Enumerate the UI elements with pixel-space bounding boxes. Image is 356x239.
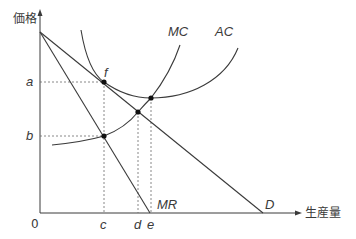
mc-label: MC xyxy=(168,25,188,38)
point-mc-mr xyxy=(101,133,106,138)
axes xyxy=(40,14,296,213)
mr-curve xyxy=(40,32,150,213)
ac-curve xyxy=(81,30,238,98)
point-f xyxy=(101,79,106,84)
price-label-b: b xyxy=(26,129,33,142)
point-mc-d xyxy=(135,109,140,114)
guide-lines xyxy=(40,82,151,213)
quantity-label-d: d xyxy=(134,218,141,231)
ac-label: AC xyxy=(215,25,233,38)
y-axis-arrow-icon xyxy=(38,9,43,16)
demand-curve xyxy=(40,32,263,213)
origin-label: 0 xyxy=(31,218,39,230)
point-ac-min xyxy=(148,95,153,100)
point-f-label: f xyxy=(104,66,108,79)
y-axis-label: 価格 xyxy=(13,13,37,25)
x-axis-label: 生産量 xyxy=(305,207,341,219)
mr-label: MR xyxy=(157,198,177,211)
quantity-label-c: c xyxy=(100,218,107,231)
d-label: D xyxy=(265,198,274,211)
x-axis-arrow-icon xyxy=(295,211,302,216)
quantity-label-e: e xyxy=(147,218,154,231)
price-label-a: a xyxy=(26,75,33,88)
